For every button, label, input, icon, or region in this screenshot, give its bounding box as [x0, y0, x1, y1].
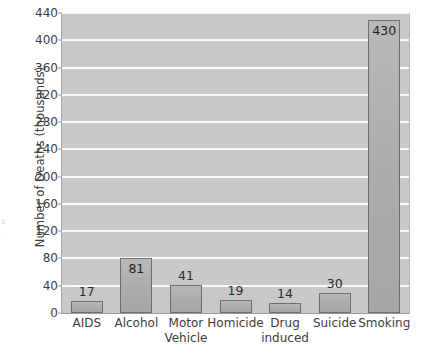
x-axis-category-label: AIDS — [72, 316, 101, 331]
gridline — [62, 67, 409, 69]
y-axis-tick-labels: 04080120160200240280320360400440 — [14, 0, 58, 356]
y-axis-tick-mark — [58, 176, 62, 177]
x-axis-category-label: Alcohol — [114, 316, 158, 331]
y-axis-tick-label: 440 — [18, 6, 58, 20]
x-axis-category-label: Druginduced — [261, 316, 309, 346]
bar-value-label: 17 — [79, 284, 95, 299]
y-axis-tick-mark — [58, 40, 62, 41]
bar-value-label: 41 — [178, 268, 194, 283]
y-axis-tick-label: 240 — [18, 142, 58, 156]
bar — [71, 301, 103, 313]
plot-area — [62, 13, 410, 313]
y-axis-tick-mark — [58, 67, 62, 68]
y-axis-tick-label: 40 — [18, 279, 58, 293]
bar — [269, 303, 301, 313]
y-axis-tick-label: 360 — [18, 61, 58, 75]
gridline — [62, 148, 409, 150]
bar-value-label: 19 — [228, 283, 244, 298]
y-axis-tick-mark — [58, 285, 62, 286]
y-axis-tick-mark — [58, 203, 62, 204]
bar-value-label: 14 — [277, 286, 293, 301]
y-axis-tick-mark — [58, 149, 62, 150]
y-axis-tick-label: 160 — [18, 197, 58, 211]
x-axis-category-label: Smoking — [358, 316, 410, 331]
x-axis-category-label: MotorVehicle — [164, 316, 207, 346]
bar-chart-figure: s · Number of Deaths (thousands) 0408012… — [0, 0, 428, 356]
bar — [220, 300, 252, 313]
y-axis-tick-mark — [58, 231, 62, 232]
y-axis-tick-label: 400 — [18, 33, 58, 47]
y-axis-tick-mark — [58, 258, 62, 259]
gridline — [62, 13, 409, 14]
y-axis-tick-label: 200 — [18, 170, 58, 184]
x-axis-line — [62, 313, 410, 314]
gridline — [62, 39, 409, 41]
scan-artifact-dot: · — [1, 232, 4, 242]
bar-value-label: 81 — [128, 261, 144, 276]
bar-value-label: 30 — [327, 276, 343, 291]
gridline — [62, 230, 409, 232]
gridline — [62, 176, 409, 178]
gridline — [62, 203, 409, 205]
x-axis-category-label: Suicide — [313, 316, 357, 331]
bar — [170, 285, 202, 313]
bar-value-label: 430 — [372, 23, 396, 38]
scan-artifact-mark: s — [1, 216, 6, 226]
gridline — [62, 257, 409, 259]
y-axis-tick-label: 0 — [18, 306, 58, 320]
y-axis-tick-mark — [58, 122, 62, 123]
gridline — [62, 121, 409, 123]
y-axis-tick-label: 320 — [18, 88, 58, 102]
y-axis-tick-mark — [58, 313, 62, 314]
bar — [368, 20, 400, 313]
gridline — [62, 94, 409, 96]
bar — [319, 293, 351, 313]
y-axis-tick-label: 80 — [18, 251, 58, 265]
y-axis-tick-mark — [58, 13, 62, 14]
y-axis-tick-label: 120 — [18, 224, 58, 238]
x-axis-category-label: Homicide — [207, 316, 263, 331]
y-axis-tick-mark — [58, 94, 62, 95]
y-axis-tick-label: 280 — [18, 115, 58, 129]
